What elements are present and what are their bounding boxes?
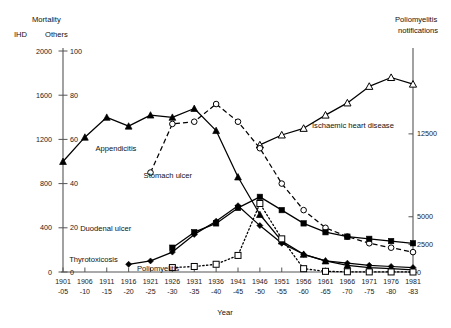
- y-tick-ihd: 1200: [10, 135, 52, 144]
- series-line: [172, 197, 413, 248]
- data-point: [257, 200, 263, 206]
- y-tick-polio: 0: [417, 268, 421, 277]
- data-point: [191, 105, 198, 111]
- series-ischaemic-heart-disease: [256, 74, 416, 148]
- data-point: [388, 245, 394, 251]
- data-point: [191, 119, 197, 125]
- data-point: [410, 269, 416, 275]
- data-point: [410, 241, 415, 246]
- right-axis-heading-line2: notifications: [398, 26, 438, 35]
- data-point: [256, 211, 263, 217]
- series-appendicitis: [60, 105, 417, 273]
- series-poliomyelitis: [169, 200, 416, 275]
- mortality-heading: Mortality: [32, 15, 61, 24]
- series-duodenal-ulcer: [170, 194, 416, 250]
- y-tick-polio: 5000: [417, 212, 433, 221]
- series-line: [63, 109, 413, 270]
- right-axis-heading-line1: Poliomyelitis: [395, 15, 437, 24]
- data-point: [345, 234, 350, 239]
- data-point: [323, 268, 329, 274]
- data-point: [366, 269, 372, 275]
- series-label-ischaemic-heart-disease: Ischaemic heart disease: [312, 121, 394, 130]
- data-point: [279, 236, 285, 242]
- x-axis-title: Year: [205, 308, 245, 317]
- y-tick-others: 40: [70, 179, 78, 188]
- data-point: [301, 221, 306, 226]
- data-point: [301, 207, 307, 213]
- ihd-axis-heading: IHD: [14, 30, 27, 39]
- series-label-poliomyelitis: Poliomyelitis: [137, 264, 179, 273]
- y-tick-ihd: 400: [10, 223, 52, 232]
- data-point: [170, 121, 176, 127]
- data-point: [257, 145, 263, 151]
- data-point: [213, 261, 219, 267]
- data-point: [367, 236, 372, 241]
- data-point: [125, 123, 132, 129]
- y-tick-ihd: 800: [10, 179, 52, 188]
- y-tick-ihd: 2000: [10, 47, 52, 56]
- y-tick-polio: 12500: [417, 129, 437, 138]
- data-point: [323, 230, 328, 235]
- series-label-stomach-ulcer: Stomach ulcer: [144, 171, 193, 180]
- data-point: [410, 249, 416, 255]
- x-tick-year: 1981: [398, 278, 428, 285]
- y-tick-others: 100: [70, 47, 82, 56]
- data-point: [235, 119, 241, 125]
- y-tick-polio: 2500: [417, 240, 433, 249]
- data-point: [300, 125, 307, 132]
- data-point: [388, 74, 395, 81]
- data-point: [322, 111, 329, 118]
- series-thyrotoxicosis: [126, 203, 416, 271]
- data-point: [213, 101, 219, 107]
- chart-figure: Mortality IHD Others Poliomyelitis notif…: [0, 0, 451, 328]
- data-point: [191, 263, 197, 269]
- data-point: [279, 207, 284, 212]
- data-point: [388, 269, 394, 275]
- data-point: [103, 114, 110, 120]
- x-tick-year-end: -83: [398, 288, 428, 295]
- y-tick-others: 20: [70, 223, 78, 232]
- data-point: [301, 266, 307, 272]
- y-tick-ihd: 0: [10, 268, 52, 277]
- series-label-thyrotoxicosis: Thyrotoxicosis: [69, 255, 118, 264]
- others-axis-heading: Others: [45, 30, 68, 39]
- data-point: [126, 261, 132, 267]
- series-label-duodenal-ulcer: Duodenal ulcer: [80, 224, 131, 233]
- y-tick-others: 60: [70, 135, 78, 144]
- data-point: [257, 194, 262, 199]
- y-tick-others: 0: [70, 268, 74, 277]
- data-point: [388, 238, 393, 243]
- y-tick-ihd: 1600: [10, 91, 52, 100]
- series-label-appendicitis: Appendicitis: [95, 144, 136, 153]
- series-line: [172, 204, 413, 273]
- data-point: [235, 174, 242, 180]
- data-point: [344, 269, 350, 275]
- y-tick-others: 80: [70, 91, 78, 100]
- data-point: [235, 252, 241, 258]
- data-point: [279, 181, 285, 187]
